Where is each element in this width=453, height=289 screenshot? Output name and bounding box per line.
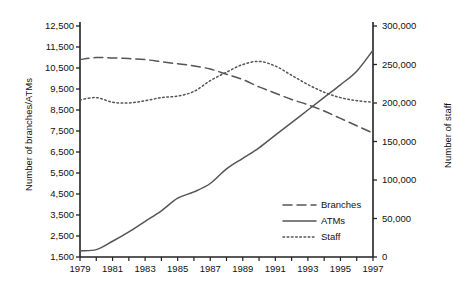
series-line-staff <box>80 61 373 103</box>
legend-label-atms: ATMs <box>321 215 345 226</box>
legend-label-staff: Staff <box>321 231 340 242</box>
legend-label-branches: Branches <box>321 199 361 210</box>
series-line-branches <box>80 57 373 133</box>
